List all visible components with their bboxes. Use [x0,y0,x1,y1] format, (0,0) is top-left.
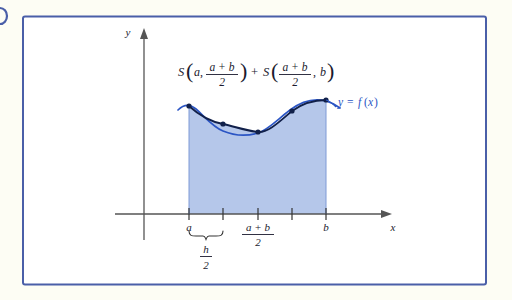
formula-frac1-denominator: 2 [219,76,225,88]
formula-comma-2: , [313,65,316,79]
formula-comma-1: , [200,65,203,79]
curve-label-equals: = [347,96,354,108]
brace-label-numerator: h [203,243,209,255]
node-point-3 [289,108,294,113]
curve-label-x: x [367,96,374,108]
curve-label-y: y [337,96,344,109]
node-point-midpoint [255,129,260,134]
formula-s1: S [178,65,185,79]
formula-open-paren-2: ( [271,58,278,83]
node-point-1 [220,121,225,126]
simpsons-rule-figure: y x a b a + b 2 h 2 y = f ( x ) S ( a , [0,0,512,300]
x-tick-label-a: a [186,221,192,233]
formula-frac2-denominator: 2 [292,76,298,88]
x-axis-label: x [390,221,396,233]
formula-frac1-numerator: a + b [209,61,234,73]
formula-plus-operator: + [251,65,258,79]
figure-root: y x a b a + b 2 h 2 y = f ( x ) S ( a , [0,0,512,300]
formula-open-paren-1: ( [186,58,193,83]
curve-label-close-paren: ) [374,96,378,109]
formula-s2: S [263,65,270,79]
node-point-a [186,103,191,108]
brace-label-denominator: 2 [203,259,209,271]
formula-close-paren-2: ) [327,58,334,83]
formula-close-paren-1: ) [240,58,247,83]
formula-frac2-numerator: a + b [282,61,307,73]
formula-arg-b: b [320,65,326,79]
x-tick-label-midpoint-numerator: a + b [246,221,270,233]
x-tick-label-midpoint-denominator: 2 [255,236,261,248]
y-axis-label: y [125,26,131,38]
x-tick-label-b: b [323,221,329,233]
